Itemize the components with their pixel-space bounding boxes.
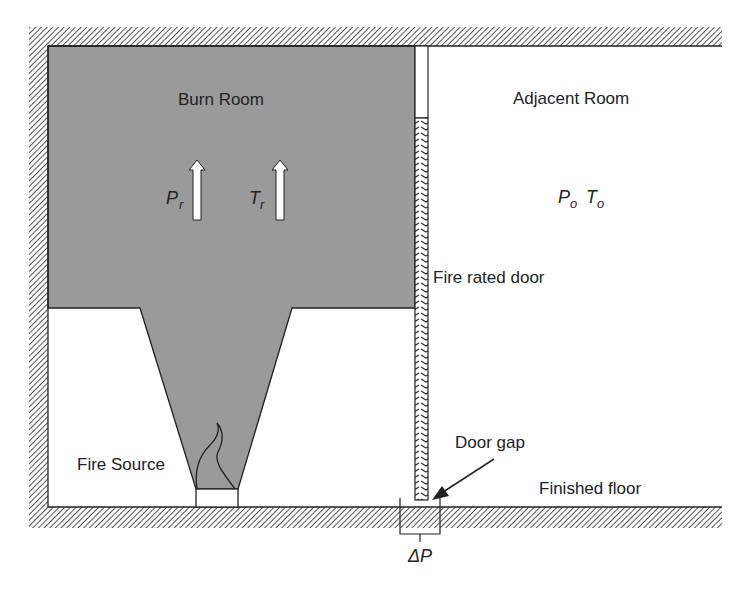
door-gap-label: Door gap — [455, 433, 525, 452]
door-frame-top — [415, 46, 428, 118]
door-panel — [415, 118, 428, 500]
smoke-plume — [48, 46, 415, 489]
adj-pressure-subscript: o — [570, 196, 577, 211]
fire-diagram: Burn Room Adjacent Room Fire rated door … — [0, 0, 744, 593]
floor-slab — [29, 507, 722, 528]
fire-source-box — [196, 489, 238, 507]
delta-p-label: ΔP — [407, 546, 432, 566]
fire-source-label: Fire Source — [77, 455, 165, 474]
burn-temp-subscript: r — [260, 197, 265, 212]
adjacent-room-label: Adjacent Room — [513, 89, 629, 108]
burn-room-label: Burn Room — [178, 90, 264, 109]
left-wall — [29, 27, 48, 528]
burn-pressure-subscript: r — [179, 197, 184, 212]
burn-pressure-symbol: P — [166, 188, 178, 208]
adj-temp-subscript: o — [597, 196, 604, 211]
door-gap-arrow — [432, 459, 494, 500]
finished-floor-label: Finished floor — [539, 479, 641, 498]
adj-pressure-symbol: P — [558, 187, 570, 207]
fire-rated-door-label: Fire rated door — [433, 268, 545, 287]
smoke-layer — [48, 46, 415, 489]
fire-rated-door — [415, 46, 428, 500]
ceiling-wall — [29, 27, 722, 46]
